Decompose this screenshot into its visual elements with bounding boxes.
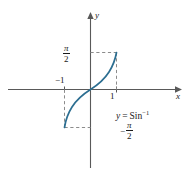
y-axis-label: y (95, 11, 99, 20)
plot-canvas (0, 0, 189, 177)
y-tick-label-pi-over-2: π 2 (63, 44, 70, 64)
curve-label-variable: y (116, 111, 120, 121)
fraction-denominator: 2 (63, 54, 70, 64)
x-axis-label: x (176, 92, 180, 101)
fraction-pi-over-2: π 2 (63, 44, 70, 64)
curve-label-function: Sin (130, 111, 143, 121)
curve-equation-label: y=Sin−1 (116, 110, 149, 122)
fraction-numerator: π (63, 44, 70, 54)
signed-fraction-negative-pi-over-2: − π 2 (120, 121, 133, 141)
fraction-denominator: 2 (126, 131, 133, 141)
inverse-sine-graph-figure: π 2 − π 2 −1 1 y x y=Sin−1 (0, 0, 189, 177)
y-axis-arrow-icon (87, 12, 93, 19)
x-tick-label-one: 1 (110, 92, 115, 101)
x-tick-label-negative-one: −1 (55, 76, 65, 85)
curve-label-equals: = (122, 111, 127, 121)
fraction-pi-over-2: π 2 (126, 121, 133, 141)
minus-sign: − (120, 127, 125, 136)
y-tick-label-negative-pi-over-2: − π 2 (120, 121, 133, 141)
curve-label-exponent: −1 (142, 109, 149, 116)
fraction-numerator: π (126, 121, 133, 131)
